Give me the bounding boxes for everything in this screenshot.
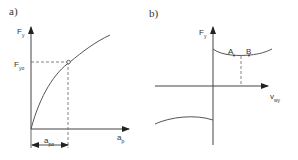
upper-curve xyxy=(213,49,272,55)
y-axis-label: Fy xyxy=(17,27,25,38)
point-a-label: A xyxy=(228,47,234,56)
y-axis-label: Fy xyxy=(199,28,207,39)
x-axis-label: vwy xyxy=(270,92,281,103)
x-axis-label: ap xyxy=(117,133,124,144)
lower-curve xyxy=(155,117,213,124)
diagram-canvas: a) Fy Fyo apo ap b) A B Fy vwy xyxy=(0,0,298,160)
point-b-label: B xyxy=(246,47,251,56)
panel-b-label: b) xyxy=(149,7,159,20)
force-curve xyxy=(31,35,110,129)
panel-a: a) Fy Fyo apo ap xyxy=(9,5,129,148)
operating-point xyxy=(67,60,71,64)
fyo-label: Fyo xyxy=(14,60,24,71)
panel-a-label: a) xyxy=(9,5,18,18)
panel-b: b) A B Fy vwy xyxy=(149,7,281,145)
